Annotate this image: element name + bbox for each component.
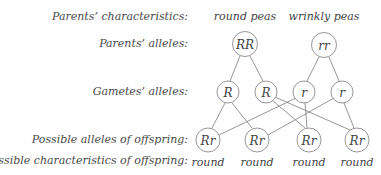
gamete-node-3: r xyxy=(293,81,315,103)
svg-text:R: R xyxy=(260,86,270,100)
gamete-node-2: R xyxy=(255,81,277,103)
offspring-4-characteristic: round xyxy=(340,156,373,169)
svg-text:Rr: Rr xyxy=(200,134,217,148)
parent-node-2: rr xyxy=(312,33,337,58)
parent-1-characteristic: round peas xyxy=(214,10,277,23)
gamete-node-4: r xyxy=(331,81,353,103)
offspring-2-characteristic: round xyxy=(240,156,273,169)
svg-text:rr: rr xyxy=(318,39,331,53)
offspring-3-characteristic: round xyxy=(292,156,325,169)
parent-2-characteristic: wrinkly peas xyxy=(289,10,360,23)
offspring-node-2: Rr xyxy=(245,128,269,152)
offspring-node-1: Rr xyxy=(196,128,220,152)
punnett-tree-diagram: RR rr round peas wrinkly peas R R r r Rr… xyxy=(0,0,381,175)
offspring-node-4: Rr xyxy=(345,128,369,152)
parent-node-1: RR xyxy=(233,32,258,57)
offspring-1-characteristic: round xyxy=(191,156,224,169)
svg-text:RR: RR xyxy=(235,38,254,52)
svg-text:R: R xyxy=(222,86,232,100)
svg-text:Rr: Rr xyxy=(301,134,318,148)
svg-text:Rr: Rr xyxy=(249,134,266,148)
offspring-node-3: Rr xyxy=(297,128,321,152)
svg-text:Rr: Rr xyxy=(349,134,366,148)
gamete-node-1: R xyxy=(217,81,239,103)
